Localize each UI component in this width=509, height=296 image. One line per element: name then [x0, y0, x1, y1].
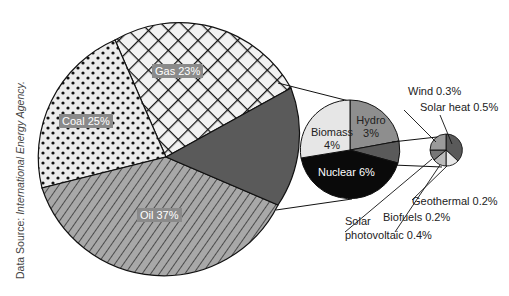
label-solar-heat: Solar heat 0.5%	[420, 101, 498, 113]
label-wind: Wind 0.3%	[408, 85, 461, 97]
data-source-note: Data Source: International Energy Agency…	[14, 29, 26, 279]
label-coal: Coal 25%	[59, 114, 113, 128]
label-hydro: Hydro3%	[355, 114, 387, 140]
label-geothermal: Geothermal 0.2%	[412, 195, 498, 207]
label-biomass: Biomass4%	[310, 126, 354, 152]
label-gas: Gas 23%	[152, 64, 203, 78]
label-oil: Oil 37%	[137, 208, 182, 222]
label-nuclear: Nuclear 6%	[318, 166, 375, 178]
label-solar-pv: Solarphotovoltaic 0.4%	[345, 214, 432, 242]
pie-chart-graphic	[0, 0, 509, 296]
